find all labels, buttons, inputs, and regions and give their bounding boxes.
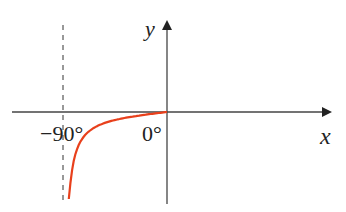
tick-label-0: 0° [142,121,162,146]
y-axis-label: y [143,16,155,41]
tick-label-neg90: −90° [40,121,83,146]
x-axis-label: x [319,123,331,149]
diagram: −90° 0° x y [0,0,346,212]
